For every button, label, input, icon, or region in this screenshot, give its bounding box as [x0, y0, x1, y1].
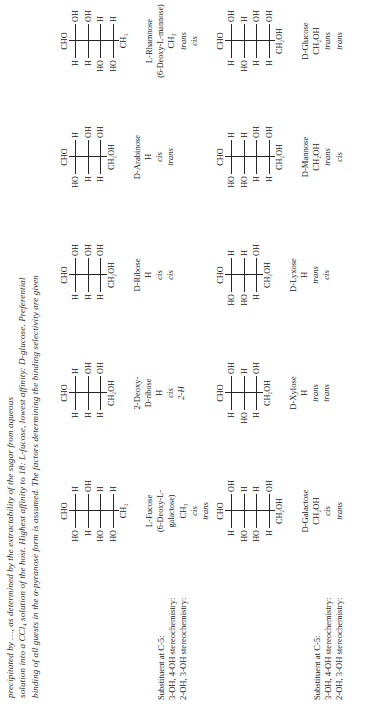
sugar-name-alt-2: galactose) [166, 442, 177, 580]
value-stereo-34: trans [310, 206, 321, 344]
bond-horizontal [88, 494, 89, 528]
substituent-left: H [227, 530, 236, 536]
stereocenter: HOH [238, 215, 251, 335]
fischer-backbone: HOHHOHHOHHOH [225, 97, 275, 217]
substituent-right: H [227, 132, 236, 138]
bond-horizontal [244, 258, 245, 292]
substituent-left: HO [71, 176, 80, 188]
substituent-left: HO [239, 60, 248, 72]
substituent-left: H [96, 176, 105, 182]
substituent-left: HO [239, 530, 248, 542]
stereocenter: HOH [94, 333, 107, 453]
substituent-left: H [71, 412, 80, 418]
substituent-right: H [108, 486, 117, 492]
value-substituent-c5: H [143, 206, 154, 344]
stereocenter: HOH [225, 451, 238, 571]
fischer-bottom-group: CH₂OH [263, 380, 272, 406]
bond-horizontal [231, 376, 232, 410]
substituent-left: HO [239, 412, 248, 424]
stereocenter: HOH [107, 451, 120, 571]
substituent-left: H [252, 294, 261, 300]
substituent-right: OH [96, 244, 105, 256]
sugar-name-alt: (6-Deoxy-L-mannose) [155, 0, 166, 110]
sugar-name: D-Ribose [132, 206, 143, 344]
fischer-backbone: HOHHOHHOHHOH [225, 451, 275, 571]
row-label-stereo-23: 2-OH, 3-OH stereochemistry: [178, 582, 189, 700]
sugar-data-rows: 2-Deoxy-D-riboseHcis2-H [132, 324, 188, 462]
bond-horizontal [88, 258, 89, 292]
substituent-right: OH [96, 362, 105, 374]
substituent-right: OH [252, 244, 261, 256]
substituent-right: OH [252, 126, 261, 138]
table-caption: precipitated by …, as determined by the … [4, 8, 41, 698]
stereocenter: HOH [107, 0, 120, 101]
stereocenter: HOH [82, 215, 95, 335]
bond-horizontal [256, 494, 257, 528]
stereocenter: HOH [250, 0, 263, 101]
fischer-top-group: CHO [216, 502, 225, 519]
value-substituent-c5: H [299, 206, 310, 344]
substituent-right: OH [83, 126, 92, 138]
bond-horizontal [231, 258, 232, 292]
substituent-right: H [108, 16, 117, 22]
substituent-right: OH [252, 10, 261, 22]
substituent-right: H [71, 368, 80, 374]
sugar-column: CHOHOHHOHHOHCH₂OHD-RiboseHciscis [60, 206, 146, 344]
fischer-bottom-group: CH₃ [119, 34, 128, 48]
sugar-data-rows: D-GalactoseCH₂OHcistrans [300, 442, 345, 580]
substituent-left: HO [96, 60, 105, 72]
stereocenter: HOH [238, 451, 251, 571]
bond-horizontal [100, 258, 101, 292]
value-stereo-23: cis [165, 206, 176, 344]
fischer-bottom-group: CH₂OH [275, 498, 284, 524]
substituent-left: H [252, 412, 261, 418]
value-substituent-c5: CH₂OH [311, 0, 322, 110]
sugar-name-alt: (6-Deoxy-L- [155, 442, 166, 580]
bond-horizontal [244, 494, 245, 528]
bond-horizontal [269, 494, 270, 528]
substituent-right: OH [264, 10, 273, 22]
bond-horizontal [100, 494, 101, 528]
substituent-left: HO [227, 294, 236, 306]
stereocenter: HH [69, 333, 82, 453]
fischer-projection: CHOHOHHOHHOHHOHCH₃ [60, 442, 146, 580]
fischer-bottom-group: CH₂OH [107, 262, 116, 288]
value-stereo-34: trans [178, 0, 189, 110]
substituent-left: H [264, 60, 273, 66]
stereocenter: HOH [94, 0, 107, 101]
bond-horizontal [269, 24, 270, 58]
substituent-left: HO [96, 530, 105, 542]
bond-horizontal [75, 258, 76, 292]
bond-horizontal [256, 24, 257, 58]
substituent-right: H [96, 16, 105, 22]
sugar-data-rows: L-Rhamnose(6-Deoxy-L-mannose)CH₃transcis [144, 0, 200, 110]
stereocenter: HOH [82, 97, 95, 217]
stereocenter: HOH [225, 215, 238, 335]
sugar-columns-2: CHOHOHHOHHOHHOHCH₂OHD-GalactoseCH₂OHcist… [216, 2, 366, 580]
stereocenter: HOH [238, 333, 251, 453]
value-stereo-34: cis [154, 206, 165, 344]
sugar-column: CHOHOHHOHHOHHOHCH₂OHD-GlucoseCH₂OHtranst… [216, 0, 302, 110]
substituent-left: H [252, 176, 261, 182]
row-label-substituent: Substituent at C-5: [156, 582, 167, 700]
value-substituent-c5: CH₂OH [311, 442, 322, 580]
stereocenter: HOH [250, 97, 263, 217]
sugar-data-rows: D-GlucoseCH₂OHtranstrans [300, 0, 345, 110]
stereocenter: HOH [82, 451, 95, 571]
caption-line-3: binding of all guests in the α-pyranose … [29, 8, 41, 698]
fischer-bottom-group: CH₂OH [263, 262, 272, 288]
substituent-left: HO [71, 530, 80, 542]
fischer-top-group: CHO [60, 502, 69, 519]
value-substituent-c5: H [299, 324, 310, 462]
bond-horizontal [75, 24, 76, 58]
substituent-right: H [239, 16, 248, 22]
fischer-bottom-group: CH₂OH [107, 144, 116, 170]
sugar-name: D-Galactose [300, 442, 311, 580]
stereocenter: HOH [82, 0, 95, 101]
sugar-name: L-Rhamnose [144, 0, 155, 110]
stereocenter: HOH [263, 97, 276, 217]
substituent-right: OH [227, 10, 236, 22]
fischer-projection: CHOHOHHOHHOHHOHCH₃ [60, 0, 146, 110]
value-substituent-c5: CH₃ [178, 442, 189, 580]
stereocenter: HOH [225, 0, 238, 101]
